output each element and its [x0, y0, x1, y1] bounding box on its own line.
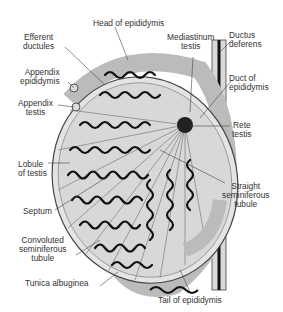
label-line: deferens [229, 40, 262, 49]
label-lobule-of-testis: Lobule of testis [18, 160, 47, 178]
label-line: epididymis [229, 83, 269, 92]
label-line: tubule [19, 254, 66, 263]
label-appendix-epididymis: Appendix epididymis [20, 68, 60, 86]
label-line: epididymis [20, 77, 60, 86]
testis-diagram: Head of epididymis Efferent ductules App… [0, 0, 283, 312]
label-line: tubule [222, 200, 269, 209]
label-tail-of-epididymis: Tail of epididymis [158, 296, 222, 305]
label-septum: Septum [23, 207, 52, 216]
label-straight-seminiferous-tubule: Straight seminiferous tubule [222, 182, 269, 209]
label-duct-of-epididymis: Duct of epididymis [229, 74, 269, 92]
label-line: testis [232, 130, 252, 139]
label-convoluted-seminiferous-tubule: Convoluted seminiferous tubule [19, 236, 66, 263]
label-line: testis [18, 108, 53, 117]
label-rete-testis: Rete testis [232, 121, 252, 139]
label-tunica-albuginea: Tunica albuginea [25, 279, 88, 288]
label-mediastinum-testis: Mediastinum testis [167, 33, 214, 51]
label-efferent-ductules: Efferent ductules [23, 33, 54, 51]
label-line: of testis [18, 169, 47, 178]
label-appendix-testis: Appendix testis [18, 99, 53, 117]
label-line: ductules [23, 42, 54, 51]
label-line: testis [167, 42, 214, 51]
label-head-of-epididymis: Head of epididymis [93, 19, 164, 28]
label-ductus-deferens: Ductus deferens [229, 31, 262, 49]
